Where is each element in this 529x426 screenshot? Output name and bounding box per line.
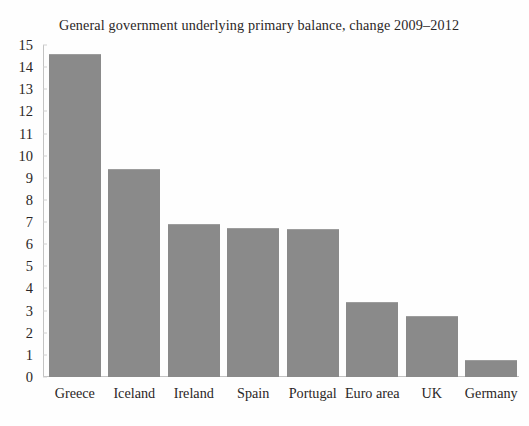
y-axis-tick-mark bbox=[43, 45, 47, 46]
y-axis-tick-label: 7 bbox=[26, 214, 33, 231]
y-axis: 0123456789101112131415 bbox=[0, 0, 43, 426]
y-axis-tick-label: 6 bbox=[26, 236, 33, 253]
x-axis: GreeceIcelandIrelandSpainPortugalEuro ar… bbox=[0, 385, 529, 409]
y-axis-tick-mark bbox=[43, 222, 47, 223]
y-axis-tick-mark bbox=[43, 244, 47, 245]
y-axis-tick-mark bbox=[43, 133, 47, 134]
x-axis-tick-label: Greece bbox=[55, 385, 95, 402]
bar bbox=[287, 229, 339, 377]
bar bbox=[227, 228, 279, 377]
bar bbox=[168, 224, 220, 377]
x-axis-tick-label: Spain bbox=[237, 385, 269, 402]
y-axis-tick-label: 11 bbox=[19, 125, 33, 142]
y-axis-tick-mark bbox=[43, 67, 47, 68]
y-axis-tick-label: 5 bbox=[26, 258, 33, 275]
x-axis-tick-label: Ireland bbox=[174, 385, 214, 402]
y-axis-tick-label: 14 bbox=[19, 59, 34, 76]
y-axis-tick-mark bbox=[43, 310, 47, 311]
bar-chart-figure: General government underlying primary ba… bbox=[0, 0, 529, 426]
y-axis-tick-label: 1 bbox=[26, 346, 33, 363]
y-axis-tick-mark bbox=[43, 111, 47, 112]
x-axis-tick-label: UK bbox=[422, 385, 443, 402]
y-axis-tick-mark bbox=[43, 155, 47, 156]
x-axis-tick-label: Germany bbox=[465, 385, 518, 402]
y-axis-tick-label: 15 bbox=[19, 37, 34, 54]
y-axis-tick-mark bbox=[43, 332, 47, 333]
bar bbox=[49, 54, 101, 377]
y-axis-tick-mark bbox=[43, 199, 47, 200]
y-axis-tick-label: 0 bbox=[26, 369, 33, 386]
bar bbox=[108, 169, 160, 377]
y-axis-tick-label: 3 bbox=[26, 302, 33, 319]
y-axis-tick-mark bbox=[43, 288, 47, 289]
y-axis-tick-label: 4 bbox=[26, 280, 33, 297]
y-axis-tick-mark bbox=[43, 377, 47, 378]
y-axis-tick-mark bbox=[43, 354, 47, 355]
y-axis-tick-label: 10 bbox=[19, 147, 34, 164]
y-axis-tick-mark bbox=[43, 89, 47, 90]
y-axis-tick-label: 2 bbox=[26, 324, 33, 341]
y-axis-tick-label: 12 bbox=[19, 103, 34, 120]
y-axis-tick-label: 13 bbox=[19, 81, 34, 98]
y-axis-tick-mark bbox=[43, 177, 47, 178]
y-axis-tick-label: 9 bbox=[26, 169, 33, 186]
chart-title: General government underlying primary ba… bbox=[59, 17, 459, 33]
bar bbox=[346, 302, 398, 377]
y-axis-tick-label: 8 bbox=[26, 191, 33, 208]
bar bbox=[406, 316, 458, 377]
x-axis-tick-label: Iceland bbox=[113, 385, 155, 402]
y-axis-tick-mark bbox=[43, 266, 47, 267]
x-axis-tick-label: Portugal bbox=[289, 385, 337, 402]
bar bbox=[465, 360, 517, 377]
x-axis-tick-label: Euro area bbox=[345, 385, 400, 402]
